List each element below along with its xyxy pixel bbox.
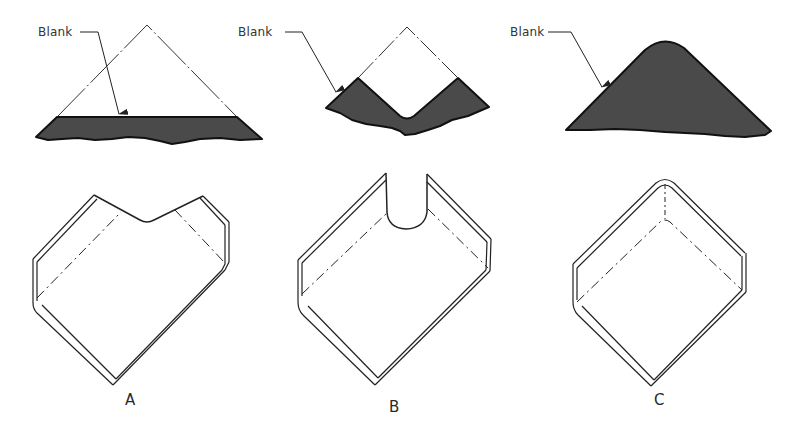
panel-a-caption: A xyxy=(125,391,135,409)
panel-b-blank-material xyxy=(326,78,489,135)
panel-b-phantom-outline xyxy=(358,27,458,78)
panel-a-phantom-outline xyxy=(57,25,237,117)
diagram-canvas xyxy=(0,0,794,424)
panel-c-formed-part xyxy=(573,180,746,387)
panel-c-leader-line xyxy=(548,32,602,87)
panel-c-blank xyxy=(548,32,771,137)
panel-a-blank-material xyxy=(36,117,262,144)
panel-a-blank xyxy=(36,25,262,144)
panel-b-leader-line xyxy=(285,32,336,92)
panel-b-formed-part xyxy=(298,173,491,385)
panel-c-blank-material xyxy=(566,41,771,137)
panel-b-blank-label: Blank xyxy=(238,25,272,39)
panel-b-blank xyxy=(285,27,489,135)
panel-b-caption: B xyxy=(389,398,399,416)
panel-a-blank-label: Blank xyxy=(38,25,72,39)
panel-c-blank-label: Blank xyxy=(510,25,544,39)
panel-a-formed-part xyxy=(33,195,229,385)
panel-c-caption: C xyxy=(654,391,664,409)
